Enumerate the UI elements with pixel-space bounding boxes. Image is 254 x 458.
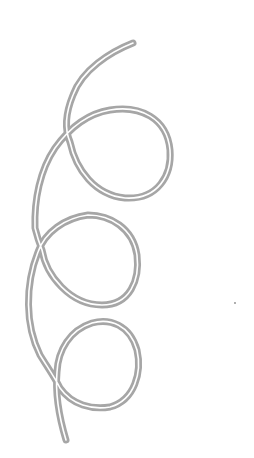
ribbon-center-gap bbox=[28, 43, 170, 440]
illustration-canvas bbox=[0, 0, 254, 458]
speck-mark bbox=[234, 302, 236, 304]
ribbon-outline bbox=[28, 43, 170, 440]
coiled-ribbon-drawing bbox=[0, 0, 254, 458]
